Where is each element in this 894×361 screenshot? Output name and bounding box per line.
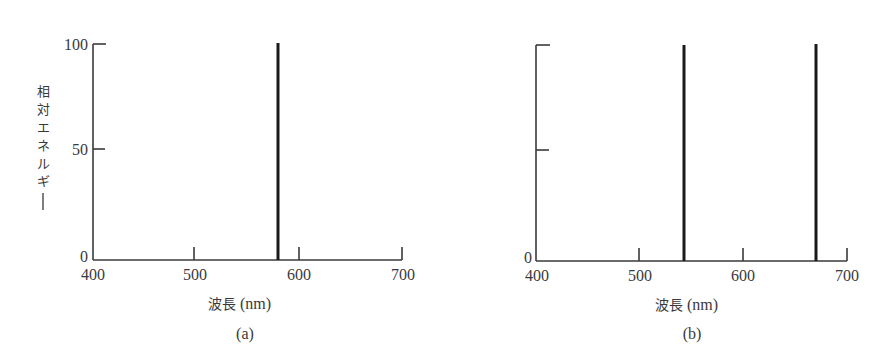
svg-text:相: 相 [37, 84, 50, 99]
chart-a-y-tick-label-0: 0 [80, 248, 88, 265]
chart-a-x-tick-label-600: 600 [287, 266, 311, 283]
chart-b-x-axis-title: 波長 (nm) [655, 296, 718, 314]
svg-text:(nm): (nm) [687, 296, 718, 314]
svg-text:対: 対 [37, 102, 50, 117]
svg-text:ネ: ネ [37, 138, 50, 153]
chart-a-y-tick-label-100: 100 [64, 36, 88, 53]
svg-text:ギ: ギ [37, 174, 50, 189]
chart-a-x-tick-label-700: 700 [391, 266, 415, 283]
chart-a-caption: (a) [236, 325, 254, 343]
svg-text:(nm): (nm) [240, 295, 271, 313]
chart-a-y-tick-label-50: 50 [72, 141, 88, 158]
svg-text:エ: エ [37, 120, 50, 135]
svg-text:ル: ル [37, 156, 50, 171]
chart-a-x-axis-title: 波長 (nm) [208, 295, 271, 313]
chart-b-x-tick-label-700: 700 [835, 267, 859, 284]
chart-a: 100 50 0 400 500 600 700 相 対 エ ネ ル ギ 波長 … [37, 36, 416, 343]
chart-a-x-tick-label-400: 400 [81, 266, 105, 283]
chart-b-caption: (b) [683, 325, 702, 343]
chart-a-x-tick-label-500: 500 [183, 266, 207, 283]
chart-b-x-tick-label-400: 400 [525, 267, 549, 284]
chart-b-y-tick-label-0: 0 [524, 249, 532, 266]
svg-text:波長: 波長 [208, 296, 236, 312]
chart-b-x-tick-label-600: 600 [731, 267, 755, 284]
svg-text:波長: 波長 [655, 297, 683, 313]
chart-a-y-axis-title: 相 対 エ ネ ル ギ [37, 84, 50, 210]
chart-b-x-tick-label-500: 500 [628, 267, 652, 284]
chart-b: 0 400 500 600 700 波長 (nm) (b) [524, 44, 859, 343]
figure: 100 50 0 400 500 600 700 相 対 エ ネ ル ギ 波長 … [0, 0, 894, 361]
